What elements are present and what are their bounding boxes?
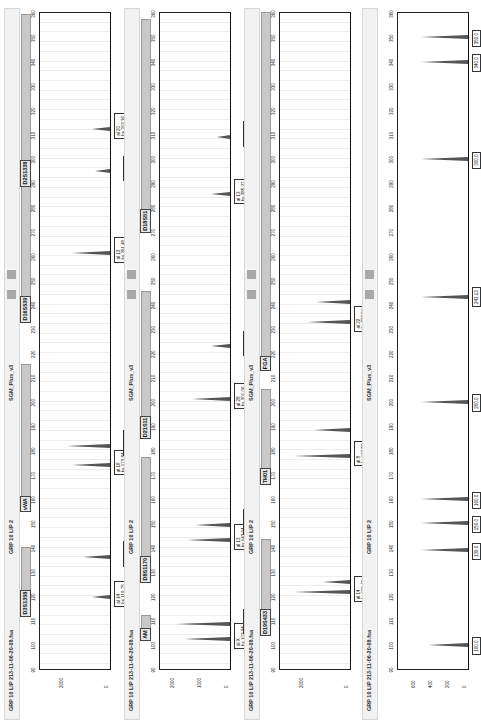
allele-peak[interactable] <box>294 590 350 594</box>
y-tick-label: 0 <box>224 685 229 688</box>
marker-label[interactable]: D16S539 <box>20 296 31 323</box>
allele-peak[interactable] <box>184 637 230 641</box>
marker-label[interactable]: TH01 <box>260 468 271 485</box>
allele-peak[interactable] <box>92 595 110 599</box>
allele-peak[interactable] <box>421 521 468 525</box>
allele-peak[interactable] <box>217 135 230 139</box>
electropherogram-panel-1: GRP 10 LIP 213-11-06-20-08.fsaGRP 10 LIP… <box>4 0 122 726</box>
allele-peak[interactable] <box>92 127 110 131</box>
allele-call-box[interactable]: 200.0 <box>472 394 481 411</box>
standard-size: 200.0 <box>474 397 479 408</box>
x-tick-label: 110 <box>389 618 394 625</box>
allele-peak[interactable] <box>421 157 468 161</box>
size-standard-swatch[interactable] <box>247 270 256 279</box>
x-tick-label: 240 <box>151 302 156 310</box>
allele-peak[interactable] <box>211 344 230 348</box>
allele-peak[interactable] <box>72 463 110 467</box>
x-tick-label: 200 <box>271 399 276 407</box>
allele-peak[interactable] <box>176 622 230 626</box>
x-tick-label: 280 <box>389 205 394 213</box>
marker-label[interactable]: D8S1179 <box>140 556 151 583</box>
x-tick-label: 110 <box>271 618 276 625</box>
allele-peak[interactable] <box>323 580 350 584</box>
x-tick-label: 260 <box>151 253 156 261</box>
allele-peak[interactable] <box>187 538 230 542</box>
allele-peak[interactable] <box>421 400 468 404</box>
size-standard-swatch[interactable] <box>7 270 16 279</box>
dye-color-swatch[interactable] <box>247 290 256 299</box>
x-tick-label: 180 <box>151 448 156 456</box>
allele-call-box[interactable]: 160.0 <box>472 492 481 509</box>
x-axis: 9010011012013014015016017018019020021022… <box>31 0 39 726</box>
x-tick-label: 120 <box>151 593 156 601</box>
allele-call-box[interactable]: 139.0 <box>472 543 481 560</box>
x-tick-label: 310 <box>31 132 36 140</box>
allele-peak[interactable] <box>192 397 230 401</box>
allele-call-box[interactable]: 300.0 <box>472 152 481 169</box>
allele-peak[interactable] <box>195 523 230 527</box>
allele-peak[interactable] <box>428 643 468 647</box>
x-tick-label: 230 <box>271 326 276 334</box>
allele-peak[interactable] <box>294 454 350 458</box>
x-tick-label: 210 <box>271 375 276 383</box>
x-tick-label: 110 <box>151 618 156 625</box>
y-tick-label: 2000 <box>59 678 64 688</box>
marker-bin-bar[interactable] <box>21 364 31 512</box>
x-tick-label: 290 <box>389 180 394 188</box>
marker-label[interactable]: D18S51 <box>140 209 151 233</box>
marker-bins: AMD8S1179D21S11D18S51 <box>140 0 151 726</box>
allele-peak[interactable] <box>421 497 468 501</box>
allele-call-box[interactable]: 100.0 <box>472 637 481 654</box>
allele-peak[interactable] <box>421 548 468 552</box>
dye-color-swatch[interactable] <box>127 290 136 299</box>
allele-peak[interactable] <box>421 295 468 299</box>
dye-label: GRP 10 LIP 2 <box>248 520 254 554</box>
allele-peak[interactable] <box>95 169 110 173</box>
marker-bin-bar[interactable] <box>141 19 151 232</box>
marker-label[interactable]: D3S1358 <box>20 590 31 617</box>
x-tick-label: 290 <box>271 180 276 188</box>
x-tick-label: 250 <box>389 278 394 286</box>
allele-call-box[interactable]: 340.0 <box>472 54 481 71</box>
marker-label[interactable]: vWA <box>20 496 31 512</box>
allele-peak[interactable] <box>314 428 350 432</box>
allele-peak[interactable] <box>421 60 468 64</box>
size-standard-swatch[interactable] <box>127 270 136 279</box>
allele-call-box[interactable]: 350.0 <box>472 30 481 47</box>
x-tick-label: 160 <box>31 496 36 504</box>
marker-bin-bar[interactable] <box>261 12 271 371</box>
allele-peak[interactable] <box>72 251 110 255</box>
x-tick-label: 210 <box>389 375 394 383</box>
allele-peak[interactable] <box>83 555 110 559</box>
x-tick-label: 230 <box>389 326 394 334</box>
marker-label[interactable]: FGA <box>260 356 271 372</box>
standard-size: 300.0 <box>474 155 479 166</box>
x-tick-label: 300 <box>31 156 36 164</box>
x-tick-label: 330 <box>389 83 394 91</box>
y-tick-label: 2000 <box>299 678 304 688</box>
allele-call-box[interactable]: 243.13 <box>472 287 481 307</box>
marker-label[interactable]: D2S1338 <box>20 160 31 187</box>
marker-label[interactable]: D21S11 <box>140 416 151 440</box>
allele-call-box[interactable]: 150.0 <box>472 516 481 533</box>
allele-peak[interactable] <box>211 192 230 196</box>
size-standard-swatch[interactable] <box>365 270 374 279</box>
allele-peak[interactable] <box>316 300 350 304</box>
marker-label[interactable]: AM <box>140 628 151 641</box>
x-tick-label: 160 <box>389 496 394 504</box>
allele-peak[interactable] <box>67 444 110 448</box>
allele-peak[interactable] <box>307 320 350 324</box>
x-tick-label: 350 <box>389 35 394 43</box>
x-tick-label: 220 <box>271 350 276 358</box>
x-tick-label: 150 <box>389 520 394 528</box>
marker-label[interactable]: D19S433 <box>260 609 271 636</box>
dye-color-swatch[interactable] <box>365 290 374 299</box>
panel-header: GRP 10 LIP 213-11-06-20-08.fsaGRP 10 LIP… <box>124 8 140 720</box>
x-tick-label: 270 <box>271 229 276 237</box>
dye-color-swatch[interactable] <box>7 290 16 299</box>
x-tick-label: 280 <box>31 205 36 213</box>
x-tick-label: 260 <box>31 253 36 261</box>
x-tick-label: 170 <box>151 472 156 480</box>
x-tick-label: 320 <box>389 107 394 115</box>
allele-peak[interactable] <box>421 35 468 39</box>
